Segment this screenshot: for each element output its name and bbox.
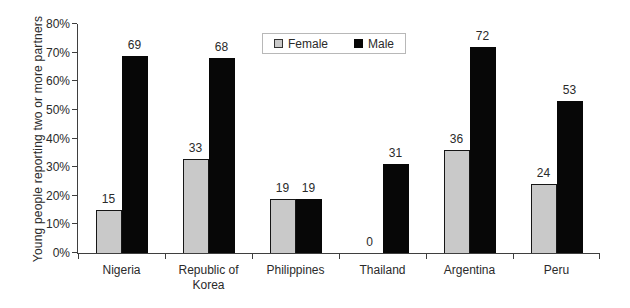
bar-female — [444, 150, 470, 253]
y-axis-tick-mark — [72, 109, 77, 110]
y-axis-tick-mark — [72, 138, 77, 139]
legend-label-female: Female — [288, 37, 328, 51]
x-axis-tick-mark — [78, 254, 79, 259]
y-axis-tick-mark — [72, 23, 77, 24]
legend-swatch-female — [274, 39, 283, 48]
y-axis-tick-label: 0% — [30, 246, 70, 260]
legend-label-male: Male — [368, 37, 394, 51]
legend-item-female: Female — [274, 37, 328, 51]
x-axis-tick-mark — [513, 254, 514, 259]
y-axis-tick-mark — [72, 223, 77, 224]
legend-item-male: Male — [354, 37, 394, 51]
y-axis-tick-mark — [72, 80, 77, 81]
y-axis-tick-label: 70% — [30, 46, 70, 60]
x-axis-tick-mark — [165, 254, 166, 259]
y-axis-tick-mark — [72, 52, 77, 53]
bar-male — [470, 47, 496, 253]
x-axis-tick-mark — [599, 254, 600, 259]
bar-value-label: 53 — [550, 83, 590, 97]
bar-female — [270, 199, 296, 253]
x-axis-category-label: Thailand — [339, 263, 426, 278]
bar-chart: Young people reporting two or more partn… — [0, 0, 630, 308]
bar-male — [296, 199, 322, 253]
y-axis-tick-mark — [72, 166, 77, 167]
plot-area: FemaleMale 0%10%20%30%40%50%60%70%80%156… — [77, 24, 600, 254]
bar-female — [183, 159, 209, 253]
y-axis-tick-label: 10% — [30, 217, 70, 231]
bar-male — [383, 164, 409, 253]
bar-female — [531, 184, 557, 253]
y-axis-tick-label: 60% — [30, 74, 70, 88]
bar-male — [209, 58, 235, 253]
x-axis-category-label: Nigeria — [78, 263, 165, 278]
x-axis-category-label: Republic of Korea — [165, 263, 252, 293]
legend-swatch-male — [354, 39, 363, 48]
legend: FemaleMale — [262, 33, 406, 54]
x-axis-tick-mark — [252, 254, 253, 259]
y-axis-tick-label: 40% — [30, 132, 70, 146]
x-axis-category-label: Philippines — [252, 263, 339, 278]
bar-male — [122, 56, 148, 254]
bar-male — [557, 101, 583, 253]
x-axis-tick-mark — [339, 254, 340, 259]
y-axis-tick-label: 20% — [30, 189, 70, 203]
x-axis-category-label: Peru — [513, 263, 600, 278]
x-axis-tick-mark — [426, 254, 427, 259]
y-axis-tick-label: 80% — [30, 17, 70, 31]
bar-value-label: 72 — [463, 29, 503, 43]
x-axis-category-label: Argentina — [426, 263, 513, 278]
bar-female — [96, 210, 122, 253]
bar-value-label: 69 — [115, 38, 155, 52]
y-axis-tick-mark — [72, 195, 77, 196]
bar-value-label: 19 — [289, 181, 329, 195]
bar-value-label: 31 — [376, 146, 416, 160]
y-axis-tick-mark — [72, 252, 77, 253]
bar-value-label: 68 — [202, 40, 242, 54]
y-axis-tick-label: 30% — [30, 160, 70, 174]
y-axis-tick-label: 50% — [30, 103, 70, 117]
